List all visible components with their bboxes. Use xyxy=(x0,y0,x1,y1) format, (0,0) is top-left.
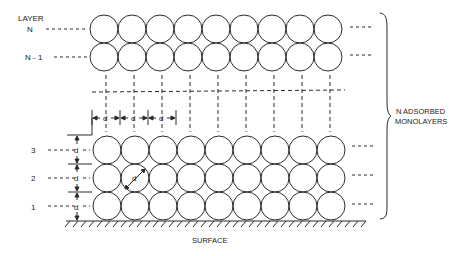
layer-label-1: 1 xyxy=(31,203,36,212)
vertical-d-dimensions xyxy=(68,136,92,220)
right-layer-leaders xyxy=(350,27,374,204)
layer-1-circles xyxy=(93,192,345,220)
right-brace xyxy=(380,13,391,219)
layer-n-minus-1-circles xyxy=(90,43,342,71)
layer-3-circles xyxy=(93,136,345,164)
surface-label: SURFACE xyxy=(192,236,227,245)
brace-label-line1: N ADSORBED xyxy=(396,107,446,116)
d-label: d xyxy=(132,174,136,183)
brace-label-line2: MONOLAYERS xyxy=(395,117,447,126)
d-label: d xyxy=(103,114,107,123)
d-label: d xyxy=(74,203,78,212)
d-label: d xyxy=(74,146,78,155)
layer-label-n-minus-1: N - 1 xyxy=(25,53,43,62)
layer-2-circles xyxy=(93,164,345,192)
continuation-dashed-lines xyxy=(92,75,345,132)
d-label: d xyxy=(159,114,163,123)
d-label: d xyxy=(74,174,78,183)
left-layer-leaders xyxy=(46,29,90,206)
d-label: d xyxy=(131,114,135,123)
layer-label-2: 2 xyxy=(31,174,36,183)
layer-label-3: 3 xyxy=(31,146,36,155)
layer-n-circles xyxy=(90,15,342,43)
layer-label-n: N xyxy=(27,25,33,34)
surface-hatch xyxy=(65,221,366,227)
layer-header: LAYER xyxy=(18,14,44,23)
monolayer-diagram: LAYER N N - 1 3 2 1 d d d d d d d N ADSO… xyxy=(0,0,469,256)
